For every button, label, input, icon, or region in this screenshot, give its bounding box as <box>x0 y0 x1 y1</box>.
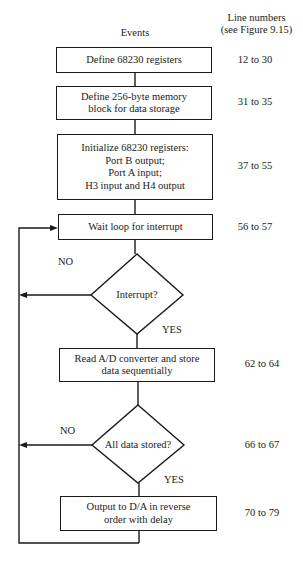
step-text: order with delay <box>87 514 191 527</box>
line-numbers-header-line2: (see Figure 9.15) <box>210 24 303 36</box>
flowchart-connectors <box>0 0 303 561</box>
step-read-ad-converter: Read A/D converter and store data sequen… <box>59 348 215 382</box>
line-numbers-step-3: 37 to 55 <box>215 160 295 171</box>
line-numbers-step-6: 66 to 67 <box>222 439 302 450</box>
step-text: block for data storage <box>81 103 187 116</box>
step-text: H3 input and H4 output <box>81 180 188 193</box>
step-wait-loop: Wait loop for interrupt <box>58 214 213 240</box>
step-text: Initialize 68230 registers: <box>81 142 188 155</box>
line-numbers-step-4: 56 to 57 <box>215 221 295 232</box>
step-output-da-reverse: Output to D/A in reverse order with dela… <box>60 496 217 531</box>
line-numbers-step-1: 12 to 30 <box>215 54 295 65</box>
line-numbers-step-2: 31 to 35 <box>215 96 295 107</box>
all-data-no-label: NO <box>60 425 75 437</box>
step-text: Define 256-byte memory <box>81 91 187 104</box>
line-numbers-header-line1: Line numbers <box>210 12 303 24</box>
step-initialize-registers: Initialize 68230 registers: Port B outpu… <box>57 134 213 200</box>
arrowheads <box>19 225 58 448</box>
events-column-header: Events <box>95 27 175 39</box>
line-numbers-step-7: 70 to 79 <box>222 507 302 518</box>
step-text: Read A/D converter and store <box>75 353 200 366</box>
interrupt-yes-label: YES <box>162 324 182 336</box>
decision-interrupt: Interrupt? <box>97 289 177 301</box>
step-text: Wait loop for interrupt <box>88 221 183 234</box>
step-text: Port B output; <box>81 155 188 168</box>
step-text: Define 68230 registers <box>86 54 182 67</box>
all-data-yes-label: YES <box>164 474 184 486</box>
line-numbers-step-5: 62 to 64 <box>222 358 302 369</box>
decision-all-data-stored: All data stored? <box>98 439 178 451</box>
step-text: data sequentially <box>75 365 200 378</box>
line-numbers-header: Line numbers (see Figure 9.15) <box>210 12 303 36</box>
step-text: Port A input; <box>81 167 188 180</box>
interrupt-no-label: NO <box>58 256 73 268</box>
step-define-registers: Define 68230 registers <box>56 47 212 73</box>
step-text: Output to D/A in reverse <box>87 501 191 514</box>
step-define-memory-block: Define 256-byte memory block for data st… <box>56 86 212 120</box>
